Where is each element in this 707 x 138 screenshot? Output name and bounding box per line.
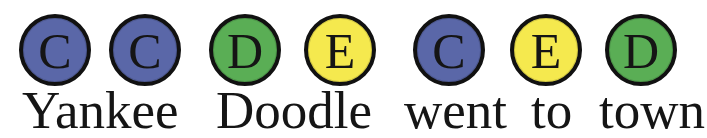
note-letter: E	[325, 26, 356, 76]
note-letter: D	[227, 26, 263, 76]
lyric-word: went	[404, 84, 507, 137]
note-circle-e: E	[510, 14, 582, 86]
note-circle-c: C	[413, 14, 485, 86]
lyric-word: to	[531, 84, 572, 137]
note-circle-c: C	[109, 14, 181, 86]
note-circle-d: D	[605, 14, 677, 86]
note-letter: C	[128, 26, 161, 76]
note-circle-c: C	[19, 14, 91, 86]
lyric-word: Yankee	[22, 84, 179, 137]
note-circle-d: D	[209, 14, 281, 86]
note-letter: E	[531, 26, 562, 76]
note-letter: C	[432, 26, 465, 76]
note-circle-e: E	[304, 14, 376, 86]
lyric-word: town	[599, 84, 705, 137]
note-letter: C	[38, 26, 71, 76]
note-letter: D	[623, 26, 659, 76]
lyric-word: Doodle	[216, 84, 372, 137]
